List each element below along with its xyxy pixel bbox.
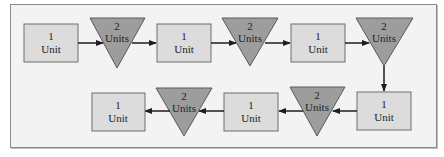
node-box2: 1 Unit xyxy=(157,24,211,62)
tri4-unit: Units xyxy=(305,101,329,113)
tri2-number: 2 xyxy=(247,20,253,32)
tri5-number: 2 xyxy=(181,90,187,102)
tri1-unit: Units xyxy=(105,32,129,44)
tri3-number: 2 xyxy=(381,20,387,32)
box4-number: 1 xyxy=(381,98,387,110)
box5-unit: Unit xyxy=(241,112,261,124)
box3-unit: Unit xyxy=(308,43,328,55)
node-box5: 1 Unit xyxy=(224,93,278,131)
process-flow-diagram: 1 Unit 2 Units 1 Unit 2 Units 1 Unit 2 U… xyxy=(0,0,444,157)
box1-unit: Unit xyxy=(41,43,61,55)
node-tri3: 2 Units xyxy=(356,18,413,66)
box2-number: 1 xyxy=(181,30,187,42)
node-tri2: 2 Units xyxy=(222,18,278,66)
box5-number: 1 xyxy=(248,99,254,111)
node-box3: 1 Unit xyxy=(291,24,345,62)
box4-unit: Unit xyxy=(374,111,394,123)
box6-unit: Unit xyxy=(108,112,128,124)
tri2-unit: Units xyxy=(238,32,262,44)
tri4-number: 2 xyxy=(314,89,320,101)
box6-number: 1 xyxy=(115,99,121,111)
tri3-unit: Units xyxy=(372,32,396,44)
node-tri5: 2 Units xyxy=(156,88,212,136)
box3-number: 1 xyxy=(315,30,321,42)
tri1-number: 2 xyxy=(114,20,120,32)
box1-number: 1 xyxy=(48,30,54,42)
node-box6: 1 Unit xyxy=(92,93,145,131)
node-box4: 1 Unit xyxy=(357,92,411,130)
tri5-unit: Units xyxy=(172,102,196,114)
box2-unit: Unit xyxy=(174,43,194,55)
node-box1: 1 Unit xyxy=(24,24,78,62)
